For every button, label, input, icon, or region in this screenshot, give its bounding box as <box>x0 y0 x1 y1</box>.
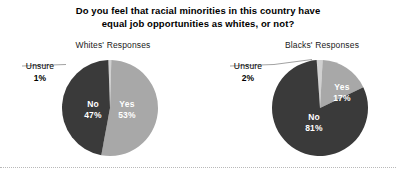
slice-label-no-blacks: No <box>308 112 320 122</box>
leader-line-unsure-blacks-segment <box>274 58 330 80</box>
slice-label-no-whites: No <box>87 99 99 109</box>
callout-unsure-whites-word: Unsure <box>14 61 66 73</box>
callout-unsure-whites-value: 1% <box>14 73 66 85</box>
callout-unsure-blacks: Unsure 2% <box>222 61 274 84</box>
slice-value-yes-blacks: 17% <box>333 93 351 103</box>
slice-label-yes-blacks: Yes <box>334 82 349 92</box>
panel-title-blacks: Blacks' Responses <box>270 40 374 50</box>
panel-title-whites: Whites' Responses <box>63 40 163 50</box>
leader-line-unsure-whites <box>60 58 116 80</box>
figure-title-line-1: Do you feel that racial minorities in th… <box>48 5 348 18</box>
figure-title: Do you feel that racial minorities in th… <box>48 5 348 30</box>
slice-value-yes-whites: 53% <box>118 110 136 120</box>
slice-label-yes-whites: Yes <box>119 99 134 109</box>
figure-title-line-2: equal job opportunities as whites, or no… <box>48 18 348 31</box>
pie-chart-figure: Do you feel that racial minorities in th… <box>0 0 396 173</box>
callout-unsure-blacks-value: 2% <box>222 73 274 85</box>
slice-value-no-whites: 47% <box>84 110 102 120</box>
footer-divider <box>0 167 396 169</box>
callout-unsure-blacks-word: Unsure <box>222 61 274 73</box>
slice-value-no-blacks: 81% <box>305 123 323 133</box>
callout-unsure-whites: Unsure 1% <box>14 61 66 84</box>
